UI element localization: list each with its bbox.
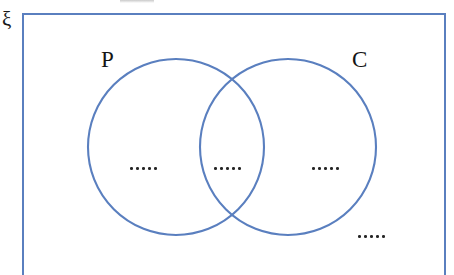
region-dots-outside: [358, 235, 385, 238]
region-dot: [324, 167, 327, 170]
region-dot: [382, 235, 385, 238]
set-circle-p: [88, 59, 264, 235]
region-dot: [238, 167, 241, 170]
region-dot: [220, 167, 223, 170]
venn-diagram-canvas: ξ P C: [0, 0, 454, 275]
region-dot: [318, 167, 321, 170]
region-dot: [130, 167, 133, 170]
region-dot: [370, 235, 373, 238]
region-dot: [336, 167, 339, 170]
set-label-p: P: [101, 48, 114, 71]
region-dot: [154, 167, 157, 170]
region-dots-c-only: [312, 167, 339, 170]
region-dot: [136, 167, 139, 170]
region-dot: [142, 167, 145, 170]
set-label-c: C: [352, 48, 367, 71]
region-dot: [148, 167, 151, 170]
region-dot: [312, 167, 315, 170]
set-circle-c: [200, 59, 376, 235]
region-dots-overlap: [214, 167, 241, 170]
region-dot: [330, 167, 333, 170]
region-dots-p-only: [130, 167, 157, 170]
region-dot: [226, 167, 229, 170]
region-dot: [358, 235, 361, 238]
venn-circles-group: [0, 0, 454, 275]
region-dot: [376, 235, 379, 238]
region-dot: [364, 235, 367, 238]
region-dot: [214, 167, 217, 170]
region-dot: [232, 167, 235, 170]
